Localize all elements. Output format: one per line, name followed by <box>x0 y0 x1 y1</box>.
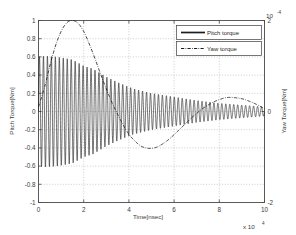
x-tick-label: 8 <box>218 206 222 213</box>
legend-label-yaw: Yaw torque <box>207 46 238 52</box>
x-tick-label: 2 <box>82 206 86 213</box>
y-tick-label-left: -0.4 <box>25 144 36 151</box>
x-axis-ticklabels: 0246810 <box>37 206 269 213</box>
series-line-pitch-torque <box>39 56 265 167</box>
legend-item-pitch-torque[interactable]: Pitch torque <box>177 26 262 40</box>
y-tick-label-left: -0.8 <box>25 181 36 188</box>
y-axis-right-ticklabels: 20-2 <box>268 17 274 206</box>
x-tick-label: 0 <box>37 206 41 213</box>
y-tick-label-left: -0.6 <box>25 162 36 169</box>
figure-canvas: 10.80.60.40.20-0.2-0.4-0.6-0.8-1 20-2 02… <box>0 0 296 235</box>
y-tick-label-right: -2 <box>268 199 274 206</box>
x-axis-exponent: x 10 <box>243 223 255 230</box>
y-axis-left-title: Pitch Torque[Nm] <box>8 87 15 135</box>
x-tick-label: 4 <box>127 206 131 213</box>
y-tick-label-left: 0 <box>32 108 36 115</box>
y-tick-label-right: 0 <box>268 108 272 115</box>
y-tick-label-left: -0.2 <box>25 126 36 133</box>
y-axis-right-exponent-power: -4 <box>277 10 282 15</box>
x-axis-exponent-power: 4 <box>262 221 265 226</box>
torque-chart: 10.80.60.40.20-0.2-0.4-0.6-0.8-1 20-2 02… <box>0 0 296 235</box>
y-axis-right-title: Yaw Torque[Nm] <box>280 88 287 133</box>
y-tick-label-left: 0.2 <box>27 90 36 97</box>
y-axis-left-ticklabels: 10.80.60.40.20-0.2-0.4-0.6-0.8-1 <box>25 17 36 206</box>
y-tick-label-left: 1 <box>32 17 36 24</box>
y-tick-label-left: 0.8 <box>27 35 36 42</box>
y-tick-label-left: -1 <box>30 199 36 206</box>
y-tick-label-left: 0.4 <box>27 71 36 78</box>
x-axis-title: Time[nsec] <box>133 213 163 220</box>
y-axis-right-exponent: 10 <box>266 12 273 19</box>
x-tick-label: 6 <box>172 206 176 213</box>
legend-item-yaw-torque[interactable]: Yaw torque <box>177 42 262 56</box>
x-tick-label: 10 <box>261 206 269 213</box>
y-tick-label-left: 0.6 <box>27 53 36 60</box>
legend-label-pitch: Pitch torque <box>207 30 240 36</box>
